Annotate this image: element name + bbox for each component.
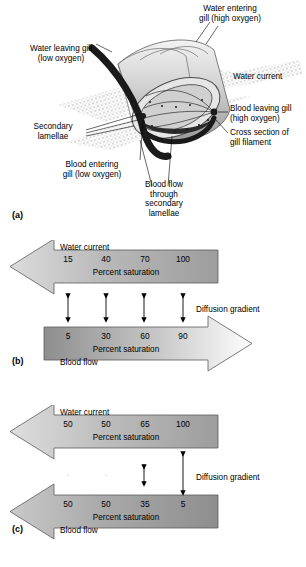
panel-b-blood-flow-label: Blood flow <box>60 358 98 368</box>
panel-c-blood-value-3: 5 <box>172 500 194 510</box>
panel-b-water-value-1: 40 <box>94 255 118 265</box>
label-secondary-lamellae: Secondary lamellae <box>20 122 86 141</box>
panel-c-water-value-2: 65 <box>133 420 157 430</box>
panel-c-blood-saturation-label: Percent saturation <box>56 513 196 523</box>
panel-b-diffusion-arrows <box>68 296 183 320</box>
panel-b-water-value-2: 70 <box>133 255 157 265</box>
panel-c-water-current-label: Water current <box>60 408 109 418</box>
label-blood-entering-gill: Blood entering gill (low oxygen) <box>40 160 144 179</box>
figure-root: Water entering gill (high oxygen) Water … <box>0 0 306 567</box>
panel-b-water-value-0: 15 <box>56 255 80 265</box>
panel-c-blood-value-1: 50 <box>94 500 118 510</box>
panel-b-blood-value-1: 30 <box>94 332 118 342</box>
label-blood-leaving-gill: Blood leaving gill (high oxygen) <box>230 104 291 123</box>
panel-b-diffusion-gradient-label: Diffusion gradient <box>196 305 260 315</box>
label-water-entering-gill: Water entering gill (high oxygen) <box>172 4 288 23</box>
panel-c-water-arrow <box>10 405 218 459</box>
panel-c-blood-value-0: 50 <box>56 500 80 510</box>
panel-b-water-arrow <box>10 240 218 294</box>
panel-letter-a: (a) <box>12 210 23 220</box>
panel-c-blood-arrow <box>10 484 218 539</box>
panel-b-blood-value-0: 5 <box>56 332 80 342</box>
label-cross-section-gill-filament: Cross section of gill filament <box>230 128 289 147</box>
label-blood-flow-through-secondary-lamellae: Blood flow through secondary lamellae <box>128 180 200 218</box>
panel-b-water-current-label: Water current <box>60 243 109 253</box>
label-water-current: Water current <box>233 72 282 82</box>
label-water-leaving-gill: Water leaving gill (low oxygen) <box>8 44 114 63</box>
panel-letter-b: (b) <box>12 356 24 366</box>
panel-b-blood-value-2: 60 <box>133 332 157 342</box>
panel-c-water-value-1: 50 <box>94 420 118 430</box>
panel-c-diffusion-gradient-label: Diffusion gradient <box>196 473 260 483</box>
panel-c-blood-flow-label: Blood flow <box>60 526 98 536</box>
panel-c-water-value-3: 100 <box>170 420 196 430</box>
panel-b-water-value-3: 100 <box>170 255 196 265</box>
panel-b-water-saturation-label: Percent saturation <box>56 268 196 278</box>
panel-b-blood-value-3: 90 <box>170 332 196 342</box>
panel-c-diffusion-arrows <box>68 454 183 493</box>
panel-c-water-value-0: 50 <box>56 420 80 430</box>
panel-c-water-saturation-label: Percent saturation <box>56 433 196 443</box>
panel-b-blood-saturation-label: Percent saturation <box>56 345 196 355</box>
panel-c-blood-value-2: 35 <box>133 500 157 510</box>
panel-letter-c: (c) <box>12 524 23 534</box>
